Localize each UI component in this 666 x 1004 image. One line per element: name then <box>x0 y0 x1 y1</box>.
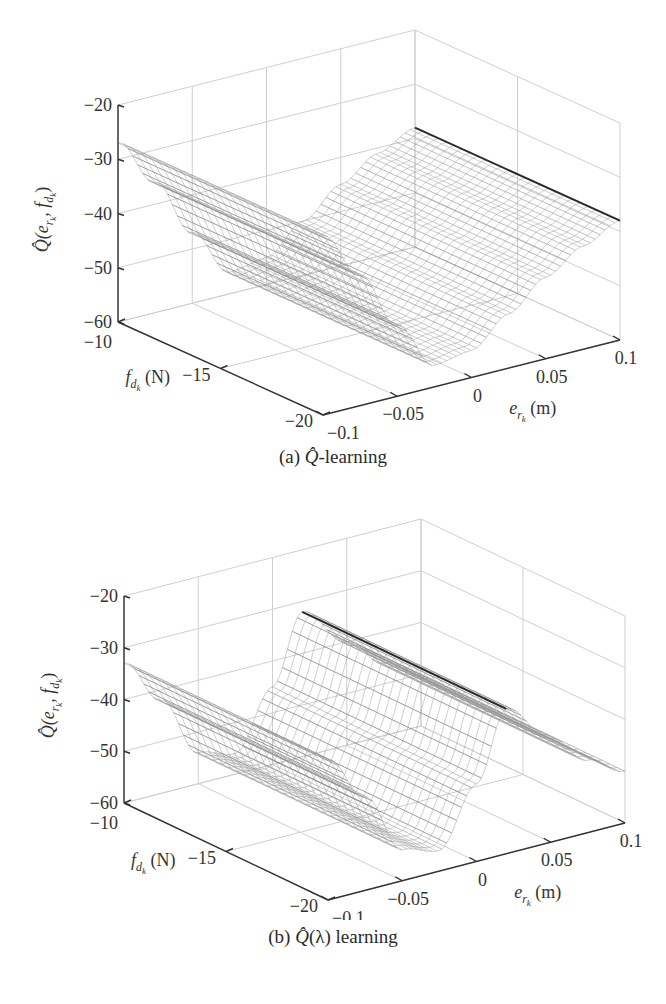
f-axis-title: fdk (N) <box>126 367 171 393</box>
e-tick-label: 0.05 <box>541 850 573 870</box>
e-tick-label: 0 <box>473 386 482 406</box>
caption-a-symbol: Q̂ <box>305 446 319 467</box>
caption-b: (b) Q̂(λ) learning <box>0 926 666 948</box>
f-tick-label: −15 <box>182 365 210 385</box>
z-tick-label: −60 <box>84 312 112 332</box>
f-tick-label: −15 <box>188 848 216 868</box>
z-axis-title: Q̂(erk, fdk) <box>32 187 58 253</box>
e-axis-title: erk (m) <box>509 398 556 424</box>
z-tick-label: −50 <box>90 741 118 761</box>
e-tick-label: −0.05 <box>382 404 424 424</box>
surface-plot-a: −20−30−40−50−60−10−15−20−0.1−0.0500.050.… <box>0 0 666 440</box>
plot-area: −20−30−40−50−60−10−15−20−0.1−0.0500.050.… <box>38 519 642 920</box>
panel-a: −20−30−40−50−60−10−15−20−0.1−0.0500.050.… <box>0 0 666 500</box>
e-axis-title: erk (m) <box>514 882 561 908</box>
e-tick-label: −0.1 <box>332 908 365 920</box>
surface-plot-b: −20−30−40−50−60−10−15−20−0.1−0.0500.050.… <box>0 500 666 920</box>
f-tick-label: −20 <box>290 896 318 916</box>
z-tick-label: −30 <box>90 638 118 658</box>
z-tick-label: −20 <box>90 586 118 606</box>
panel-b: −20−30−40−50−60−10−15−20−0.1−0.0500.050.… <box>0 500 666 1004</box>
e-tick-label: 0 <box>478 870 487 890</box>
z-tick-label: −40 <box>90 690 118 710</box>
caption-b-prefix: (b) <box>268 926 295 947</box>
caption-b-symbol: Q̂ <box>295 926 309 947</box>
z-tick-label: −50 <box>84 258 112 278</box>
f-axis-title: fdk (N) <box>131 850 176 876</box>
f-tick-label: −20 <box>285 411 313 431</box>
surface-mesh <box>118 128 620 366</box>
caption-b-suffix: (λ) learning <box>309 926 398 947</box>
z-tick-label: −20 <box>84 95 112 115</box>
caption-a-suffix: -learning <box>319 446 388 467</box>
e-tick-label: −0.05 <box>387 889 429 909</box>
z-tick-label: −60 <box>90 793 118 813</box>
f-tick-label: −10 <box>90 813 118 833</box>
z-axis-title: Q̂(erk, fdk) <box>38 673 64 739</box>
caption-a: (a) Q̂-learning <box>0 446 666 468</box>
plot-area: −20−30−40−50−60−10−15−20−0.1−0.0500.050.… <box>32 30 637 440</box>
e-tick-label: 0.1 <box>620 831 643 851</box>
e-tick-label: −0.1 <box>327 423 360 440</box>
z-tick-label: −40 <box>84 204 112 224</box>
caption-a-prefix: (a) <box>279 446 305 467</box>
z-tick-label: −30 <box>84 149 112 169</box>
e-tick-label: 0.1 <box>615 348 638 368</box>
e-tick-label: 0.05 <box>536 367 568 387</box>
f-tick-label: −10 <box>84 332 112 352</box>
